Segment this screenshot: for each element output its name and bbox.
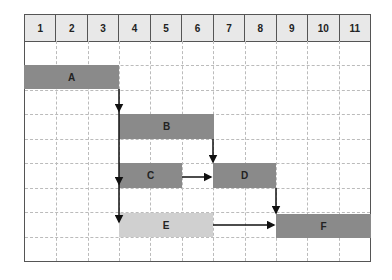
- dependency-arrows: [0, 0, 392, 280]
